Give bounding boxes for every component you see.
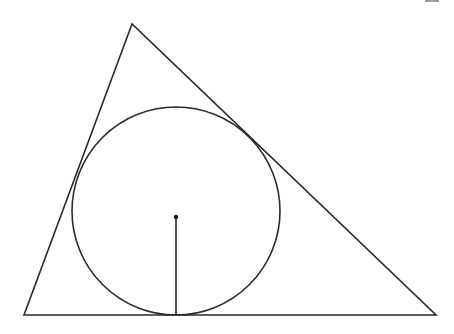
center-point	[174, 215, 178, 219]
triangle	[24, 24, 436, 315]
incircle-diagram	[0, 0, 454, 334]
